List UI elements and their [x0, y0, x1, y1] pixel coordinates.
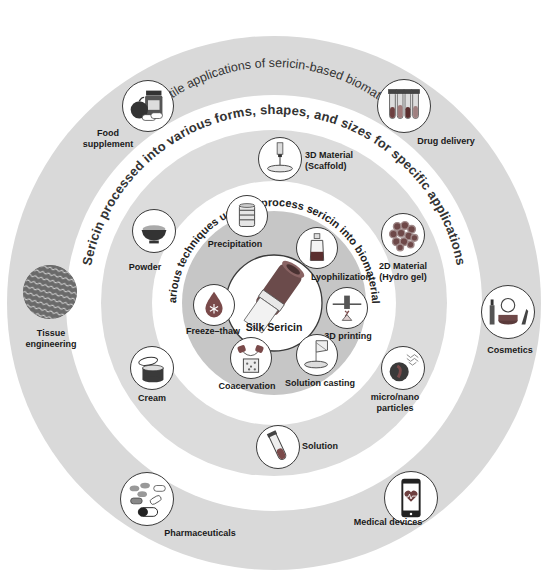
technique-freeze-thaw-label: Freeze–thaw — [180, 326, 246, 337]
form-powder-node — [132, 209, 176, 253]
freeze-drop-icon — [194, 285, 234, 325]
form-2d-material-node — [381, 213, 425, 257]
form-2d-material-label: 2D Material (Hydro gel) — [370, 261, 436, 283]
form-cream-label: Cream — [130, 393, 174, 404]
form-micro-nano-line1: micro/nano — [371, 392, 420, 402]
technique-lyophilization-label: Lyophilization — [306, 272, 376, 283]
test-tubes-icon — [378, 80, 430, 132]
3d-printer-nozzle-icon — [327, 288, 367, 328]
app-tissue-line1: Tissue — [37, 328, 65, 338]
form-3d-material-line1: 3D Material — [305, 150, 353, 160]
technique-freeze-thaw-node — [193, 284, 235, 326]
technique-precipitation-label: Precipitation — [200, 239, 270, 250]
app-food-supplement-node — [122, 80, 174, 132]
app-pharmaceuticals-node — [120, 472, 174, 526]
particle-sphere-icon — [382, 347, 424, 389]
makeup-compact-icon — [482, 286, 534, 338]
app-drug-delivery-label: Drug delivery — [406, 136, 486, 147]
form-cream-node — [130, 346, 174, 390]
scaffold-dish-icon — [259, 138, 301, 180]
cream-jar-icon — [131, 347, 173, 389]
technique-precipitation-node — [226, 195, 268, 237]
bottle-icon — [297, 228, 337, 268]
form-micro-nano-particles-label: micro/nano particles — [362, 392, 428, 414]
form-powder-label: Powder — [120, 262, 170, 273]
form-micro-nano-particles-node — [381, 346, 425, 390]
technique-solution-casting-label: Solution casting — [282, 378, 358, 389]
technique-lyophilization-node — [296, 227, 338, 269]
precipitation-beaker-icon — [227, 196, 267, 236]
test-tube-icon — [257, 426, 299, 468]
app-drug-delivery-node — [377, 79, 431, 133]
woven-mesh-icon — [23, 265, 77, 319]
app-cosmetics-label: Cosmetics — [480, 345, 540, 356]
technique-coacervation-label: Coacervation — [212, 381, 282, 392]
coacervation-icon — [231, 338, 271, 378]
apple-supplement-jar-icon — [123, 81, 173, 131]
app-food-line2: supplement — [83, 139, 134, 149]
powder-bowl-icon — [133, 210, 175, 252]
sericin-diagram: Versatile applications of sericin-based … — [0, 0, 548, 571]
hydrogel-beads-icon — [382, 214, 424, 256]
app-medical-devices-label: Medical devices — [348, 517, 428, 528]
pills-capsules-icon — [121, 473, 173, 525]
form-3d-material-node — [258, 137, 302, 181]
app-pharmaceuticals-label: Pharmaceuticals — [160, 528, 240, 539]
app-tissue-line2: engineering — [25, 339, 76, 349]
app-tissue-engineering-label: Tissue engineering — [20, 328, 82, 350]
casting-pour-icon — [297, 335, 337, 375]
form-3d-material-label: 3D Material (Scaffold) — [305, 150, 375, 172]
app-tissue-engineering-node — [23, 265, 77, 319]
technique-3d-printing-node — [326, 287, 368, 329]
app-cosmetics-node — [481, 285, 535, 339]
form-solution-node — [256, 425, 300, 469]
form-micro-nano-line2: particles — [376, 403, 413, 413]
app-food-line1: Food — [97, 128, 119, 138]
app-food-supplement-label: Food supplement — [78, 128, 138, 150]
form-solution-label: Solution — [302, 441, 352, 452]
form-2d-material-line2: (Hydro gel) — [379, 272, 427, 282]
form-3d-material-line2: (Scaffold) — [305, 161, 347, 171]
technique-coacervation-node — [230, 337, 272, 379]
technique-solution-casting-node — [296, 334, 338, 376]
form-2d-material-line1: 2D Material — [379, 261, 427, 271]
